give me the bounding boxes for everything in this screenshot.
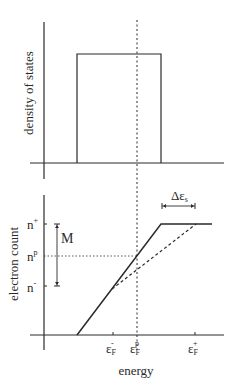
electron-count-curve	[77, 224, 212, 335]
y-tick-label-n-plus: n+	[27, 216, 39, 232]
top-panel: density of states	[21, 22, 224, 179]
dos-rectangle	[77, 54, 161, 163]
delta-es-label: Δεs	[171, 188, 188, 204]
y-tick-label-n-p: np	[27, 248, 38, 264]
bottom-x-label: energy	[118, 363, 154, 378]
delta-es-bracket	[162, 203, 195, 209]
y-tick-label-n-minus: n-	[27, 279, 37, 295]
x-tick-label-ef-p: εFp	[130, 339, 140, 357]
bottom-y-label: electron count	[6, 227, 21, 301]
m-label: M	[61, 231, 74, 246]
x-tick-label-ef-plus: εF+	[188, 339, 198, 357]
x-tick-label-ef-minus: εF-	[106, 339, 116, 357]
diagram: density of states M	[0, 0, 235, 389]
m-bracket	[54, 224, 60, 286]
bottom-panel: M Δεs electron count n+ np n- εF- εFp εF…	[6, 188, 224, 378]
top-y-label: density of states	[21, 51, 36, 135]
